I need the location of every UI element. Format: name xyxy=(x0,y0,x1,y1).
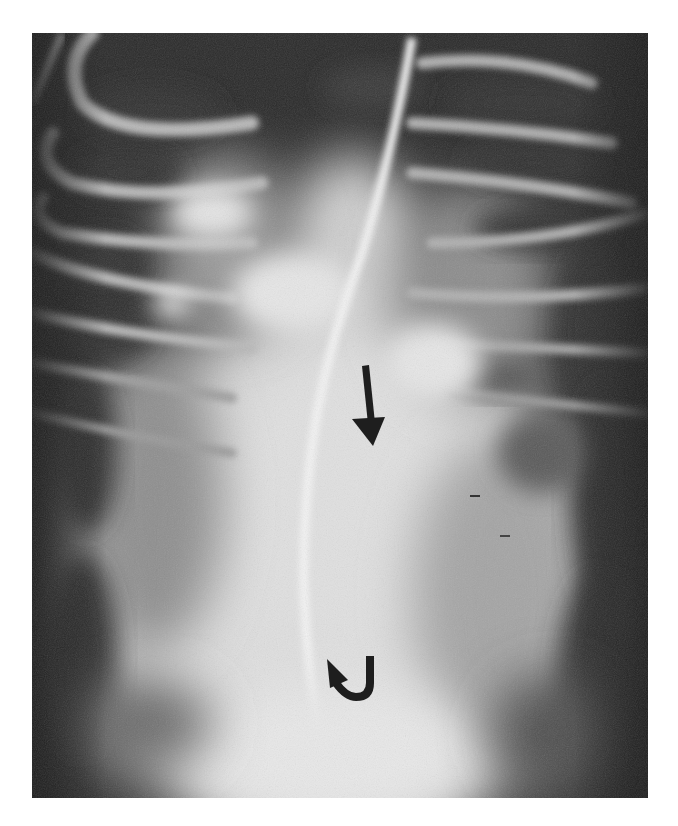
film-mark xyxy=(470,495,480,497)
chest-radiograph xyxy=(32,33,648,798)
figure-caption xyxy=(32,812,648,826)
film-mark xyxy=(500,535,510,537)
radiograph-figure xyxy=(32,33,648,798)
